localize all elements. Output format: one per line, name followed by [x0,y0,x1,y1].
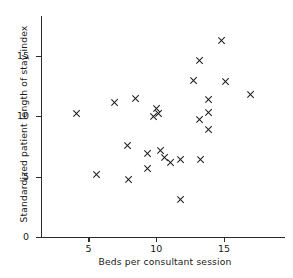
data-point-marker [167,158,176,167]
data-point-marker [110,98,119,107]
data-point-marker [144,164,153,173]
data-point-marker [196,155,205,164]
x-tick [224,237,225,242]
y-axis-line [41,16,42,238]
y-tick: 0 [36,237,41,238]
scatter-plot-figure: Standardized patient length of stay inde… [0,0,293,278]
x-tick-label: 15 [218,244,230,254]
data-point-marker [72,109,81,118]
data-point-marker [176,155,185,164]
x-tick-label: 5 [85,244,91,254]
data-point-marker [205,125,214,134]
x-tick [156,237,157,242]
data-point-marker [149,112,158,121]
data-point-marker [152,104,161,113]
y-tick: 5 [36,177,41,178]
y-tick-label: 0 [23,232,29,242]
y-tick-label: 15 [17,51,29,61]
data-point-marker [154,109,163,118]
x-tick-label: 10 [150,244,162,254]
data-point-marker [176,195,185,204]
y-tick-label: 5 [23,172,29,182]
y-tick-label: 10 [17,111,29,121]
data-point-marker [195,56,204,65]
data-point-marker [125,175,134,184]
data-point-marker [217,36,226,45]
data-point-marker [205,95,214,104]
data-point-marker [247,90,256,99]
data-point-marker [205,108,214,117]
data-point-marker [221,77,230,86]
data-point-marker [92,170,101,179]
y-axis-label: Standardized patient length of stay inde… [16,0,32,248]
data-point-marker [131,94,140,103]
plot-area: 051015 51015 [41,16,285,238]
x-tick [88,237,89,242]
data-point-marker [160,153,169,162]
data-point-marker [190,76,199,85]
data-point-marker [195,115,204,124]
data-point-marker [123,141,132,150]
data-point-marker [156,146,165,155]
x-axis-label: Beds per consultant session [40,256,290,267]
x-axis-line [41,237,285,238]
y-tick: 15 [36,56,41,57]
data-point-marker [144,149,153,158]
y-tick: 10 [36,116,41,117]
